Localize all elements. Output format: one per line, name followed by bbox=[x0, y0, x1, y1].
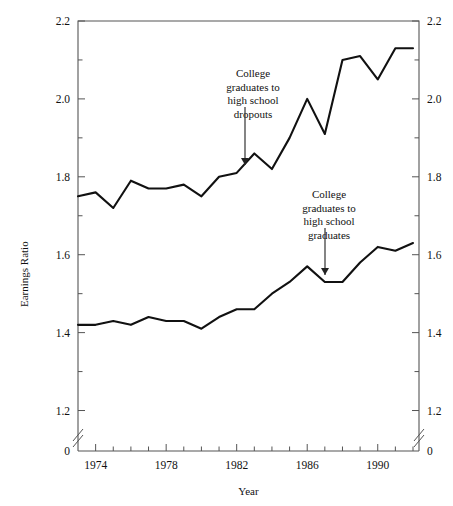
annotation-line: graduates bbox=[308, 229, 350, 241]
annotation-line: high school bbox=[227, 94, 278, 106]
annotation-line: College bbox=[312, 188, 346, 200]
y-zero-label-right: 0 bbox=[427, 445, 433, 457]
annotation-line: graduates to bbox=[302, 202, 356, 214]
x-tick-label: 1982 bbox=[225, 459, 248, 471]
x-tick-label: 1978 bbox=[155, 459, 178, 471]
earnings-ratio-line-chart: 2.22.22.02.01.81.81.61.61.41.41.21.20019… bbox=[0, 0, 453, 506]
x-tick-label: 1990 bbox=[366, 459, 389, 471]
y-tick-label-right: 2.2 bbox=[427, 15, 442, 27]
y-tick-label-right: 2.0 bbox=[427, 93, 442, 105]
y-tick-label-left: 2.2 bbox=[56, 15, 71, 27]
y-tick-label-right: 1.2 bbox=[427, 405, 442, 417]
annotation-line: high school bbox=[303, 215, 354, 227]
y-tick-label-right: 1.8 bbox=[427, 171, 442, 183]
y-axis-title: Earnings Ratio bbox=[18, 241, 30, 307]
annotation-line: dropouts bbox=[234, 108, 273, 120]
chart-figure: 2.22.22.02.01.81.81.61.61.41.41.21.20019… bbox=[0, 0, 453, 506]
x-tick-label: 1986 bbox=[296, 459, 319, 471]
upper-series-label: Collegegraduates tohigh schooldropouts bbox=[226, 67, 280, 165]
y-zero-label-left: 0 bbox=[64, 445, 70, 457]
down-arrow-icon bbox=[321, 268, 329, 275]
y-tick-label-left: 1.4 bbox=[56, 327, 71, 339]
x-axis-title: Year bbox=[238, 485, 259, 497]
y-tick-label-left: 1.8 bbox=[56, 171, 71, 183]
y-tick-label-left: 1.2 bbox=[56, 405, 71, 417]
y-tick-label-right: 1.6 bbox=[427, 249, 442, 261]
series-line-college-to-hs-grads bbox=[78, 243, 413, 329]
y-tick-label-left: 1.6 bbox=[56, 249, 71, 261]
y-tick-label-right: 1.4 bbox=[427, 327, 442, 339]
annotation-line: graduates to bbox=[226, 81, 280, 93]
annotation-line: College bbox=[236, 67, 270, 79]
x-tick-label: 1974 bbox=[84, 459, 107, 471]
lower-series-label: Collegegraduates tohigh schoolgraduates bbox=[302, 188, 356, 275]
y-tick-label-left: 2.0 bbox=[56, 93, 71, 105]
